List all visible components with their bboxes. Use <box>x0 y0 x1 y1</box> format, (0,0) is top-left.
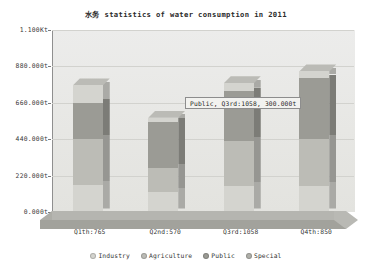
chart-legend: IndustryAgriculturePublicSpecial <box>0 252 372 259</box>
chart-title: 水务 statistics of water consumption in 20… <box>0 9 372 19</box>
bar-segment-side-face <box>178 118 185 164</box>
data-point-tooltip: Public, Q3rd:1058, 300.000t <box>185 97 301 109</box>
x-axis-label: Q2nd:570 <box>128 228 204 235</box>
bar-segment[interactable] <box>73 185 103 212</box>
floor-top-face <box>52 211 346 220</box>
legend-item[interactable]: Agriculture <box>141 252 192 259</box>
bar-segment-side-face <box>178 189 185 209</box>
chart-container: 水务 statistics of water consumption in 20… <box>0 0 372 278</box>
bar-segment-side-face <box>329 136 336 182</box>
bar-segment-side-face <box>103 181 110 208</box>
bar-segment[interactable] <box>73 103 103 139</box>
bar-segment[interactable] <box>299 139 329 185</box>
bar-segment[interactable] <box>299 71 329 78</box>
legend-swatch-icon <box>246 253 252 259</box>
bar-segment[interactable] <box>299 186 329 212</box>
y-axis-tick-label: 440.000t <box>16 135 48 143</box>
y-axis-tick-mark <box>48 66 51 67</box>
bar-segment[interactable] <box>73 85 103 102</box>
bar-series-layer <box>52 30 354 212</box>
legend-item-label: Special <box>254 252 282 259</box>
bar-segment-side-face <box>254 137 261 183</box>
legend-item-label: Agriculture <box>149 252 192 259</box>
bar-segment-side-face <box>329 182 336 208</box>
y-axis-tick-mark <box>48 103 51 104</box>
bar-segment[interactable] <box>148 168 178 192</box>
y-axis-tick-label: 880.000t <box>16 62 48 70</box>
bar-segment[interactable] <box>224 141 254 187</box>
bar-segment[interactable] <box>148 118 178 122</box>
bar-segment[interactable] <box>224 83 254 91</box>
legend-swatch-icon <box>203 253 209 259</box>
bar-segment[interactable] <box>224 186 254 212</box>
y-axis: 1.100Kt880.000t660.000t440.000t220.000t0… <box>0 30 48 212</box>
legend-item[interactable]: Special <box>246 252 282 259</box>
bar-segment-side-face <box>103 99 110 135</box>
legend-item[interactable]: Industry <box>90 252 130 259</box>
bar-segment-side-face <box>178 165 185 189</box>
y-axis-tick-mark <box>48 30 51 31</box>
legend-swatch-icon <box>141 253 147 259</box>
bar-segment[interactable] <box>299 78 329 139</box>
y-axis-tick-label: 660.000t <box>16 99 48 107</box>
y-axis-tick-label: 1.100Kt <box>20 26 48 34</box>
bar-segment-side-face <box>329 75 336 136</box>
bar-segment-side-face <box>254 88 261 138</box>
bar-segment-side-face <box>103 82 110 99</box>
y-axis-tick-label: 220.000t <box>16 172 48 180</box>
x-axis-label: Q4th:850 <box>279 228 355 235</box>
bar-segment[interactable] <box>148 122 178 168</box>
bar-segment[interactable] <box>73 139 103 185</box>
y-axis-tick-mark <box>48 176 51 177</box>
x-axis-label: Q1th:765 <box>52 228 128 235</box>
bar-segment-side-face <box>254 183 261 209</box>
x-axis-label: Q3rd:1058 <box>203 228 279 235</box>
bar-segment-side-face <box>103 136 110 182</box>
bar-segment[interactable] <box>148 192 178 212</box>
y-axis-tick-mark <box>48 139 51 140</box>
legend-item[interactable]: Public <box>203 252 235 259</box>
legend-item-label: Industry <box>98 252 130 259</box>
legend-swatch-icon <box>90 253 96 259</box>
legend-item-label: Public <box>211 252 235 259</box>
